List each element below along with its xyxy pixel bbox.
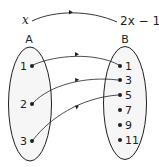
svg-text:9: 9 (125, 119, 132, 132)
rule-arrowhead-icon (69, 10, 73, 15)
arrowhead-icon (75, 52, 79, 56)
set-a-label: A (25, 33, 33, 46)
svg-text:5: 5 (125, 89, 132, 102)
svg-text:2: 2 (20, 98, 27, 111)
point-icon (118, 123, 122, 127)
function-mapping-diagram: x 2x − 1 A B 1 2 3 1 3 5 7 9 11 (0, 0, 159, 167)
rule-arrow (32, 13, 117, 22)
svg-text:7: 7 (125, 104, 132, 117)
svg-text:3: 3 (125, 74, 132, 87)
rule-input-label: x (22, 13, 29, 27)
rule-output-label: 2x − 1 (120, 14, 159, 28)
svg-text:1: 1 (125, 60, 132, 73)
svg-text:11: 11 (125, 134, 139, 147)
svg-text:3: 3 (20, 135, 27, 148)
arrowhead-icon (75, 106, 79, 110)
mapping-arrow-1-to-1 (33, 56, 119, 65)
set-b-label: B (121, 33, 129, 46)
point-icon (118, 93, 122, 97)
point-icon (118, 108, 122, 112)
svg-text:1: 1 (20, 60, 27, 73)
point-icon (118, 138, 122, 142)
point-icon (118, 78, 122, 82)
